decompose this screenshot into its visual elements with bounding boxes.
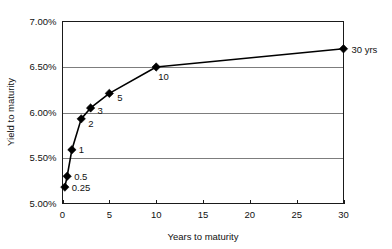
x-axis-title: Years to maturity (168, 231, 239, 242)
x-tick-label-1: 5 (107, 209, 112, 220)
chart-canvas: 5.00%5.50%6.00%6.50%7.00% 051015202530 0… (0, 0, 392, 249)
y-tick-label-2: 6.00% (30, 107, 57, 118)
x-tick-label-5: 25 (291, 209, 302, 220)
data-point-label-5: 5 (117, 92, 122, 103)
x-tick-label-6: 30 (338, 209, 349, 220)
y-axis-title: Yield to maturity (5, 78, 16, 146)
data-point-label-7: 30 yrs (352, 44, 378, 55)
y-tick-label-3: 6.50% (30, 61, 57, 72)
x-tick-label-3: 15 (198, 209, 209, 220)
chart-background (0, 0, 392, 249)
data-point-label-4: 3 (98, 105, 103, 116)
y-tick-label-4: 7.00% (30, 16, 57, 27)
data-point-label-0: 0.25 (72, 182, 91, 193)
data-point-label-1: 0.5 (74, 171, 87, 182)
data-point-label-6: 10 (158, 71, 169, 82)
x-tick-label-2: 10 (151, 209, 162, 220)
x-tick-label-4: 20 (245, 209, 256, 220)
x-tick-label-0: 0 (60, 209, 65, 220)
yield-curve-chart: 5.00%5.50%6.00%6.50%7.00% 051015202530 0… (0, 0, 392, 249)
y-tick-label-1: 5.50% (30, 152, 57, 163)
data-point-label-2: 1 (79, 144, 84, 155)
data-point-label-3: 2 (88, 118, 93, 129)
y-tick-label-0: 5.00% (30, 198, 57, 209)
